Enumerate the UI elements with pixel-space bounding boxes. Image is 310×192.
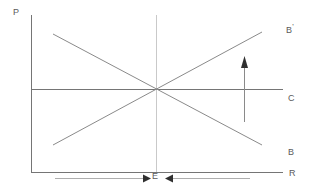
curve-b-label: B — [288, 148, 294, 157]
c-reference-line-label: C — [288, 94, 295, 103]
curve-b-prime-label: B' — [286, 23, 294, 35]
y-axis-label: P — [13, 8, 19, 17]
dimension-arrow-left-icon — [165, 175, 173, 183]
dimension-arrow-right-icon — [143, 175, 151, 183]
x-axis-label: R — [289, 169, 296, 178]
dimension-span-label: E — [152, 172, 158, 181]
prime-mark-icon: ' — [292, 22, 294, 31]
diagram-canvas — [0, 0, 310, 192]
shift-arrow-head-icon — [241, 56, 248, 68]
economics-diagram: P B' C B R E — [0, 0, 310, 192]
